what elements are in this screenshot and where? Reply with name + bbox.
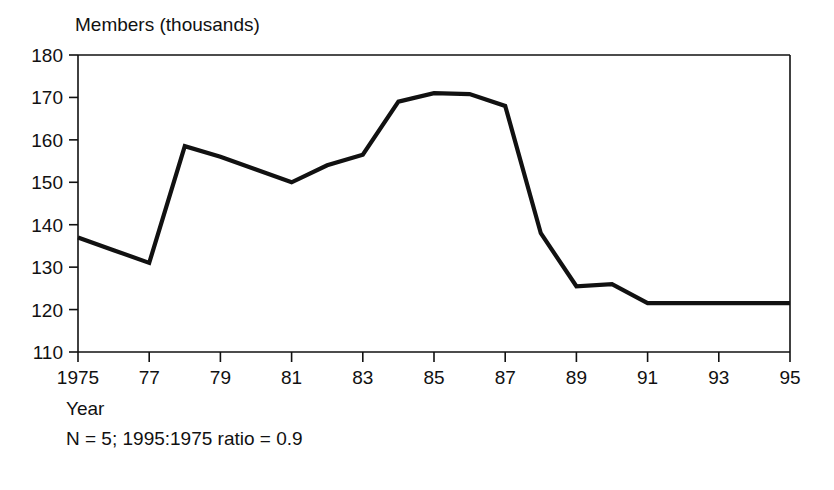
- x-tick-label: 77: [139, 367, 160, 388]
- x-tick-label: 85: [423, 367, 444, 388]
- y-tick-label: 180: [31, 45, 63, 66]
- y-tick-label: 150: [31, 172, 63, 193]
- x-tick-label: 91: [637, 367, 658, 388]
- chart-figure: Members (thousands) 19757779818385878991…: [0, 0, 834, 490]
- y-tick-label: 170: [31, 87, 63, 108]
- x-axis-ticks: 197577798183858789919395: [57, 352, 801, 388]
- x-tick-label: 79: [210, 367, 231, 388]
- y-tick-label: 160: [31, 130, 63, 151]
- data-series-group: [78, 93, 790, 303]
- y-axis-ticks: 110120130140150160170180: [31, 45, 78, 363]
- x-tick-label: 81: [281, 367, 302, 388]
- y-tick-label: 120: [31, 300, 63, 321]
- chart-footnote: N = 5; 1995:1975 ratio = 0.9: [66, 428, 303, 450]
- x-tick-label: 89: [566, 367, 587, 388]
- x-axis-label: Year: [66, 398, 104, 420]
- x-tick-label: 1975: [57, 367, 99, 388]
- y-tick-label: 130: [31, 257, 63, 278]
- x-tick-label: 93: [708, 367, 729, 388]
- y-tick-label: 110: [33, 342, 63, 363]
- y-tick-label: 140: [31, 215, 63, 236]
- x-tick-label: 83: [352, 367, 373, 388]
- line-chart-plot: 197577798183858789919395 110120130140150…: [0, 0, 834, 490]
- x-tick-label: 95: [779, 367, 800, 388]
- chart-axes: [78, 55, 790, 352]
- x-tick-label: 87: [495, 367, 516, 388]
- data-line-members: [78, 93, 790, 303]
